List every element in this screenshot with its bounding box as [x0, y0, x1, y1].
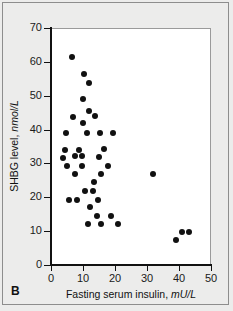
y-axis-line — [50, 27, 52, 266]
x-tick-label-30: 30 — [134, 272, 160, 284]
y-tick-mark — [44, 62, 50, 63]
data-point — [101, 146, 107, 152]
y-axis-title-text: SHBG level, — [8, 135, 20, 192]
data-point — [79, 163, 85, 169]
data-point — [76, 147, 82, 153]
x-tick-mark — [51, 266, 52, 271]
x-axis-title-text: Fasting serum insulin, — [66, 288, 168, 300]
y-tick-mark — [44, 163, 50, 164]
x-tick-mark — [179, 266, 180, 271]
y-tick-mark — [44, 96, 50, 97]
data-point — [110, 130, 116, 136]
data-point — [63, 130, 69, 136]
x-tick-label-0: 0 — [38, 272, 64, 284]
y-tick-mark — [44, 265, 50, 266]
data-point — [66, 197, 72, 203]
y-tick-label-text: 40 — [18, 124, 42, 135]
data-point — [96, 154, 102, 160]
data-point — [74, 197, 80, 203]
y-tick-mark — [44, 130, 50, 131]
data-point — [90, 188, 96, 194]
data-point — [98, 221, 104, 227]
x-tick-label-10: 10 — [70, 272, 96, 284]
y-tick-label-text: 0 — [18, 259, 42, 270]
data-point — [64, 163, 70, 169]
data-point — [85, 221, 91, 227]
x-axis-title-unit: mU/L — [171, 288, 196, 300]
x-tick-mark — [211, 266, 212, 271]
data-point — [70, 114, 76, 120]
x-tick-label-20: 20 — [102, 272, 128, 284]
y-axis-title-unit: nmol/L — [8, 100, 20, 132]
data-point — [84, 130, 90, 136]
data-point — [186, 229, 192, 235]
y-tick-label-text: 10 — [18, 225, 42, 236]
data-point — [97, 130, 103, 136]
data-point — [94, 213, 100, 219]
data-point — [173, 237, 179, 243]
data-point — [72, 171, 78, 177]
data-point — [91, 179, 97, 185]
x-axis-line — [50, 264, 212, 266]
data-point — [95, 197, 101, 203]
y-axis-title: SHBG level, nmol/L — [8, 26, 20, 266]
y-tick-mark — [44, 197, 50, 198]
x-tick-mark — [83, 266, 84, 271]
x-axis-title: Fasting serum insulin, mU/L — [36, 288, 226, 300]
x-tick-label-50: 50 — [198, 272, 224, 284]
data-point — [150, 171, 156, 177]
y-tick-label-text: 20 — [18, 191, 42, 202]
data-point — [69, 54, 75, 60]
y-tick-label-text: 50 — [18, 90, 42, 101]
data-point — [62, 147, 68, 153]
panel-label: B — [11, 284, 20, 298]
data-point — [179, 229, 185, 235]
x-tick-mark — [115, 266, 116, 271]
y-tick-label-text: 30 — [18, 157, 42, 168]
y-tick-mark — [44, 231, 50, 232]
x-tick-mark — [147, 266, 148, 271]
y-tick-label-text: 60 — [18, 56, 42, 67]
figure-panel-b: 010203040506070 01020304050 Fasting seru… — [0, 0, 233, 311]
x-tick-label-40: 40 — [166, 272, 192, 284]
y-tick-label-text: 70 — [18, 22, 42, 33]
data-point — [81, 71, 87, 77]
data-point — [86, 108, 92, 114]
y-tick-mark — [44, 28, 50, 29]
